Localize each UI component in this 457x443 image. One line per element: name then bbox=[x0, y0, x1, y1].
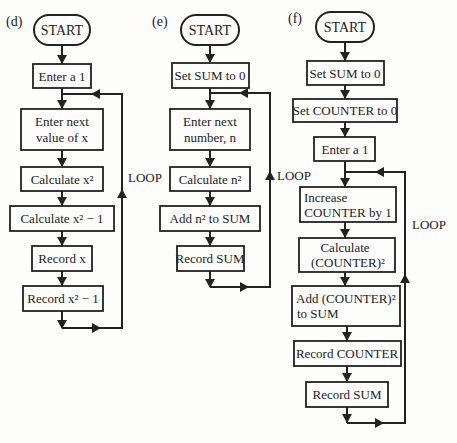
step-text: Enter a 1 bbox=[322, 142, 369, 157]
arrow-down-icon bbox=[205, 100, 215, 109]
step-text: Record x bbox=[38, 251, 86, 266]
step-text: Calculate bbox=[320, 240, 369, 255]
arrow-down-icon bbox=[340, 229, 350, 238]
chart-label-d: (d) bbox=[6, 14, 23, 30]
chart-label-e: (e) bbox=[152, 14, 168, 30]
arrow-down-icon bbox=[342, 332, 352, 341]
arrow-down-icon bbox=[340, 128, 350, 137]
step-text: number, n bbox=[184, 130, 237, 145]
step-text: COUNTER by 1 bbox=[304, 205, 391, 220]
arrow-left-icon bbox=[375, 167, 384, 177]
arrow-down-icon bbox=[205, 237, 215, 246]
start-text-e: START bbox=[189, 23, 232, 38]
arrow-right-icon bbox=[92, 323, 101, 333]
arrow-right-icon bbox=[375, 418, 384, 428]
arrow-down-icon bbox=[342, 373, 352, 382]
step-text: Enter next bbox=[35, 114, 89, 129]
flowchart-svg: (d) START Enter a 1 Enter next value of … bbox=[0, 0, 457, 443]
step-text: value of x bbox=[36, 130, 88, 145]
arrow-down-icon bbox=[57, 237, 67, 246]
step-text: Record COUNTER bbox=[296, 346, 399, 361]
start-text-f: START bbox=[324, 20, 367, 35]
arrow-down-icon bbox=[205, 197, 215, 206]
arrow-down-icon bbox=[57, 100, 67, 109]
arrow-down-icon bbox=[342, 414, 352, 423]
arrow-down-icon bbox=[340, 178, 350, 187]
chart-label-f: (f) bbox=[288, 11, 302, 27]
step-text: Set SUM to 0 bbox=[174, 68, 245, 83]
arrow-up-icon bbox=[265, 171, 275, 180]
flowchart-f: (f) START Set SUM to 0 Set COUNTER to 0 … bbox=[288, 11, 446, 428]
step-text: Set SUM to 0 bbox=[309, 66, 380, 81]
arrow-up-icon bbox=[117, 189, 127, 198]
step-text: Add n² to SUM bbox=[170, 211, 251, 226]
loop-label-d: LOOP bbox=[128, 170, 162, 185]
step-text: Enter next bbox=[183, 114, 237, 129]
step-text: Record SUM bbox=[176, 251, 245, 266]
arrow-down-icon bbox=[340, 90, 350, 99]
arrow-down-icon bbox=[340, 52, 350, 61]
flowchart-d: (d) START Enter a 1 Enter next value of … bbox=[6, 14, 162, 333]
arrow-down-icon bbox=[205, 158, 215, 167]
step-text: Record SUM bbox=[313, 387, 382, 402]
flowchart-e: (e) START Set SUM to 0 Enter next number… bbox=[152, 14, 311, 292]
arrow-up-icon bbox=[400, 274, 410, 283]
step-text: Enter a 1 bbox=[39, 69, 86, 84]
step-text: Calculate x² bbox=[31, 172, 94, 187]
arrow-down-icon bbox=[57, 197, 67, 206]
arrow-down-icon bbox=[57, 158, 67, 167]
arrow-right-icon bbox=[240, 282, 249, 292]
arrow-left-icon bbox=[91, 89, 100, 99]
step-text: Add (COUNTER)² bbox=[296, 291, 396, 306]
arrow-down-icon bbox=[340, 277, 350, 286]
step-text: Increase bbox=[304, 190, 348, 205]
step-text: Record x² − 1 bbox=[27, 291, 99, 306]
step-text: Calculate x² − 1 bbox=[20, 211, 103, 226]
arrow-down-icon bbox=[205, 54, 215, 63]
arrow-left-icon bbox=[239, 88, 248, 98]
arrow-down-icon bbox=[57, 277, 67, 286]
step-text: (COUNTER)² bbox=[311, 255, 385, 270]
step-text: Set COUNTER to 0 bbox=[293, 103, 397, 118]
flowchart-figure: (d) START Enter a 1 Enter next value of … bbox=[0, 0, 457, 443]
arrow-down-icon bbox=[57, 55, 67, 64]
loop-label-e: LOOP bbox=[277, 168, 311, 183]
loop-label-f: LOOP bbox=[412, 217, 446, 232]
start-text-d: START bbox=[41, 23, 84, 38]
step-text: to SUM bbox=[297, 306, 339, 321]
step-text: Calculate n² bbox=[179, 172, 242, 187]
